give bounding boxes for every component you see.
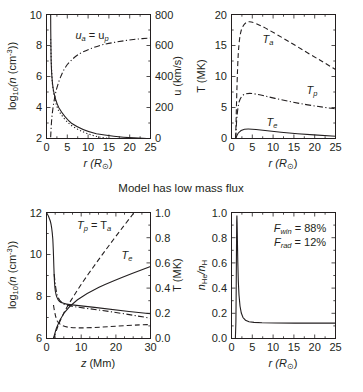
xtick-label: 10	[267, 141, 279, 153]
y2tick-label: 0.2	[155, 307, 170, 319]
xaxis-label-bottom-left: z (Mm)	[80, 357, 115, 369]
ytick-label: 10	[30, 248, 42, 260]
xaxis-ticks-bottom-left	[47, 213, 151, 339]
curve-Te	[236, 129, 336, 139]
annotation-Tp: Tp	[307, 84, 318, 98]
yaxis-label-bottom-left: log10(n (cm-3))	[5, 241, 20, 309]
curve-Ta	[236, 22, 336, 138]
xtick-label: 15	[103, 141, 115, 153]
y2tick-label: 0.8	[155, 232, 170, 244]
ytick-label: 10	[30, 9, 42, 21]
panel-bottom-right: 0.0 0.2 0.4 0.6 0.8 1.0 0 5 10 15 20 25 …	[195, 207, 342, 371]
yaxis-ticks-top-right	[232, 15, 336, 139]
annotation-Fwin: Fwin = 88%	[274, 222, 327, 236]
xtick-label: 25	[329, 141, 341, 153]
ytick-label: 8	[36, 290, 42, 302]
curve-density-dashdot-chromo	[54, 274, 150, 318]
figure-panel-grid: 2 4 6 8 10 0 200 400 600 800 0 5 10 15 2…	[0, 0, 363, 392]
xtick-label: 0	[43, 141, 49, 153]
xtick-label: 5	[64, 141, 70, 153]
ytick-label: 0.4	[212, 282, 227, 294]
xtick-label: 20	[309, 141, 321, 153]
xtick-label: 15	[288, 141, 300, 153]
ytick-label: 2	[36, 132, 42, 144]
ytick-label: 15	[215, 39, 227, 51]
y2tick-label: 600	[155, 39, 173, 51]
ytick-label: 4	[36, 101, 42, 113]
curve-density-dotted	[51, 39, 114, 139]
y2axis-label-bottom-left: T (MK)	[171, 258, 183, 291]
y2tick-label: 0.0	[155, 332, 170, 344]
y2tick-label: 0.6	[155, 257, 170, 269]
figure-caption: Model has low mass flux	[118, 182, 244, 194]
xtick-label: 0	[228, 341, 234, 353]
xtick-label: 5	[249, 141, 255, 153]
xaxis-label-top-right: r (R⊙)	[269, 157, 298, 171]
panel-top-right: 0 5 10 15 20 0 5 10 15 20 25 r (R⊙) T (M…	[195, 9, 342, 171]
ytick-label: 6	[36, 70, 42, 82]
yaxis-ticks-top-left	[47, 15, 51, 139]
xtick-label: 25	[144, 141, 156, 153]
ytick-label: 12	[30, 207, 42, 219]
xtick-label: 10	[75, 341, 87, 353]
y2axis-label-top-left: u (km/s)	[171, 56, 183, 96]
xtick-label: 5	[249, 341, 255, 353]
annotation-Ta: Ta	[263, 33, 274, 47]
xtick-label: 0	[228, 141, 234, 153]
ytick-label: 1.0	[212, 207, 227, 219]
curve-TpTa-chromo	[54, 213, 134, 339]
annotation-ua-up: ua = up	[75, 29, 108, 43]
multi-panel-figure: 2 4 6 8 10 0 200 400 600 800 0 5 10 15 2…	[0, 0, 363, 392]
yaxis-label-top-left: log10(n (cm-3))	[5, 42, 20, 110]
xtick-label: 15	[288, 341, 300, 353]
ytick-label: 0.2	[212, 307, 227, 319]
ytick-label: 10	[215, 70, 227, 82]
y2tick-label: 800	[155, 9, 173, 21]
ytick-label: 0.0	[212, 332, 227, 344]
ytick-label: 5	[221, 101, 227, 113]
yaxis-label-top-right: T (MK)	[195, 59, 207, 92]
yaxis-ticks-bottom-left	[47, 213, 51, 339]
ytick-label: 0.8	[212, 232, 227, 244]
xtick-label: 25	[329, 341, 341, 353]
xaxis-label-bottom-right: r (R⊙)	[269, 357, 298, 371]
y2tick-label: 200	[155, 101, 173, 113]
ytick-label: 8	[36, 39, 42, 51]
xtick-label: 20	[309, 341, 321, 353]
y2axis-ticks-bottom-left	[147, 213, 151, 339]
curve-Tp	[236, 93, 336, 138]
annotation-Te: Te	[267, 116, 278, 130]
xtick-label: 10	[267, 341, 279, 353]
xaxis-label-top-left: r (R⊙)	[84, 157, 113, 171]
annotation-Frad: Frad = 12%	[274, 236, 326, 250]
plot-frame-top-right	[232, 15, 336, 139]
yaxis-label-bottom-right: nHe/nH	[195, 260, 209, 290]
y2tick-label: 1.0	[155, 207, 170, 219]
y2tick-label: 0.4	[155, 282, 170, 294]
ytick-label: 0	[221, 132, 227, 144]
curve-velocity-dashdot	[51, 38, 151, 137]
xtick-label: 10	[82, 141, 94, 153]
xtick-label: 0	[43, 341, 49, 353]
ytick-label: 6	[36, 332, 42, 344]
xtick-label: 30	[144, 341, 156, 353]
panel-bottom-left: 6 8 10 12 0.0 0.2 0.4 0.6 0.8 1.0 0 10 2…	[5, 207, 183, 369]
ytick-label: 0.6	[212, 257, 227, 269]
panel-top-left: 2 4 6 8 10 0 200 400 600 800 0 5 10 15 2…	[5, 9, 183, 171]
xaxis-ticks-top-right	[232, 15, 336, 139]
xtick-label: 20	[124, 141, 136, 153]
y2axis-ticks-top-left	[147, 15, 151, 139]
annotation-Te-chromo: Te	[122, 249, 133, 263]
annotation-TpTa: Tp = Ta	[77, 219, 111, 233]
xtick-label: 20	[110, 341, 122, 353]
plot-frame-bottom-left	[47, 213, 151, 339]
curve-Te-chromo	[53, 267, 150, 339]
ytick-label: 20	[215, 9, 227, 21]
